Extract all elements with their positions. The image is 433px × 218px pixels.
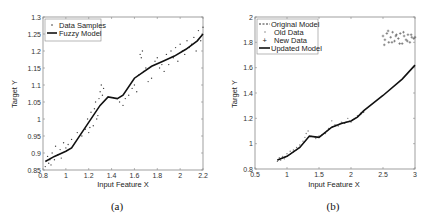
x-tick-label: 2.5: [378, 171, 388, 178]
y-tick-label: 1.05: [27, 99, 41, 106]
x-tick-label: 1.6: [130, 172, 140, 179]
data-sample-point: [136, 91, 137, 92]
data-sample-point: [45, 166, 46, 167]
data-sample-point: [97, 115, 98, 116]
y-tick-label: 1.2: [31, 48, 41, 55]
legend-label-updated-model: Updated Model: [271, 44, 322, 53]
data-sample-point: [125, 98, 126, 99]
y-tick-label: 1.8: [243, 39, 253, 46]
data-sample-point: [55, 146, 56, 147]
old-data-point: [299, 144, 300, 145]
data-sample-point: [61, 157, 62, 158]
data-sample-point: [200, 40, 201, 41]
data-sample-point: [87, 118, 88, 119]
data-sample-point: [147, 81, 148, 82]
data-sample-point: [71, 139, 72, 140]
data-sample-point: [47, 156, 48, 157]
old-data-point: [304, 137, 305, 138]
data-sample-point: [177, 61, 178, 62]
data-sample-point: [98, 98, 99, 99]
data-sample-point: [168, 64, 169, 65]
old-data-point: [290, 151, 291, 152]
y-tick-label: 0.9: [31, 150, 41, 157]
data-sample-point: [154, 61, 155, 62]
legend-label-fuzzy-model: Fuzzy Model: [59, 29, 102, 38]
data-sample-point: [99, 91, 100, 92]
x-tick-label: 2: [178, 172, 182, 179]
panel-a: 0.811.21.41.61.822.20.850.90.9511.051.11…: [10, 14, 208, 214]
x-tick-label: 1.4: [107, 172, 117, 179]
old-data-point: [331, 120, 332, 121]
y-tick-label: 1.4: [243, 90, 253, 97]
old-data-point: [282, 156, 283, 157]
data-sample-point: [142, 50, 143, 51]
old-data-point: [296, 147, 297, 148]
data-sample-point: [159, 67, 160, 68]
old-data-point: [306, 133, 307, 134]
data-sample-point: [175, 47, 176, 48]
legend-a: Data Samples Fuzzy Model: [45, 19, 106, 41]
data-sample-point: [179, 44, 180, 45]
data-sample-point: [145, 67, 146, 68]
data-sample-point: [170, 50, 171, 51]
data-sample-point: [131, 88, 132, 89]
data-sample-point: [89, 127, 90, 128]
y-tick-label: 1.6: [243, 64, 253, 71]
data-sample-point: [63, 142, 64, 143]
data-sample-point: [65, 147, 66, 148]
data-sample-point: [122, 105, 123, 106]
y-tick-label: 1.1: [31, 82, 41, 89]
data-sample-point: [157, 57, 158, 58]
y-tick-label: 1: [37, 116, 41, 123]
caption-a: (a): [111, 200, 124, 213]
data-sample-point: [134, 84, 135, 85]
data-sample-point: [193, 37, 194, 38]
legend-marker-old-data: [264, 31, 266, 33]
y-axis-label-a: Target Y: [10, 80, 19, 108]
y-tick-label: 0.85: [27, 167, 41, 174]
x-tick-label: 1: [285, 171, 289, 178]
data-sample-point: [128, 95, 129, 96]
y-tick-label: 1.15: [27, 65, 41, 72]
data-sample-point: [139, 54, 140, 55]
y-axis-label-b: Target Y: [230, 80, 239, 108]
old-data-point: [284, 158, 285, 159]
y-tick-label: 1.2: [243, 115, 253, 122]
data-sample-point: [88, 132, 89, 133]
data-sample-point: [184, 54, 185, 55]
data-sample-point: [51, 152, 52, 153]
data-sample-point: [151, 78, 152, 79]
x-axis-label-a: Input Feature X: [97, 180, 149, 189]
y-tick-label: 0.95: [27, 133, 41, 140]
x-tick-label: 3: [413, 171, 417, 178]
old-data-point: [286, 153, 287, 154]
old-data-point: [279, 157, 280, 158]
data-sample-point: [103, 88, 104, 89]
data-sample-point: [67, 144, 68, 145]
old-data-point: [277, 161, 278, 162]
data-sample-point: [95, 101, 96, 102]
data-sample-point: [77, 132, 78, 133]
data-sample-point: [93, 125, 94, 126]
old-data-point: [315, 138, 316, 139]
data-sample-point: [198, 30, 199, 31]
old-data-point: [307, 130, 308, 131]
x-tick-label: 2.2: [198, 172, 208, 179]
caption-b: (b): [327, 200, 340, 213]
y-tick-label: 1: [249, 140, 253, 147]
old-data-point: [293, 149, 294, 150]
data-sample-point: [94, 108, 95, 109]
figure: 0.811.21.41.61.822.20.850.90.9511.051.11…: [0, 0, 433, 218]
x-tick-label: 1.5: [314, 171, 324, 178]
panel-b: 0.511.522.530.811.21.41.61.82 Input Feat…: [230, 14, 417, 214]
old-data-point: [302, 140, 303, 141]
x-tick-label: 1.8: [152, 172, 162, 179]
data-sample-point: [195, 50, 196, 51]
data-sample-point: [163, 71, 164, 72]
data-sample-point: [101, 84, 102, 85]
legend-b: Original Model Old Data + New Data Updat…: [257, 19, 322, 54]
legend-marker-new-data: +: [263, 36, 268, 45]
data-sample-point: [59, 149, 60, 150]
x-tick-label: 1: [64, 172, 68, 179]
data-sample-point: [141, 57, 142, 58]
